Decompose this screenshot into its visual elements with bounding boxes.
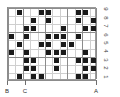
grid-major-vline <box>8 8 9 79</box>
grid-cell-filled <box>24 34 29 39</box>
x-axis-tick <box>25 80 26 85</box>
row-number-axis: 987654321 <box>99 5 113 81</box>
grid-cell-filled <box>54 50 59 55</box>
y-axis-line <box>7 7 8 81</box>
grid-frame <box>7 7 96 80</box>
grid-cell-filled <box>76 74 81 79</box>
x-axis-tick-label: A <box>91 87 101 95</box>
grid-cell-filled <box>61 26 66 31</box>
grid-cell-filled <box>61 42 66 47</box>
grid-cell-filled <box>76 10 81 15</box>
grid-cell-filled <box>83 10 88 15</box>
grid-cell-filled <box>46 42 51 47</box>
x-axis-tick-label: C <box>20 87 30 95</box>
x-axis-tick <box>96 80 97 85</box>
grid-cell-filled <box>61 34 66 39</box>
grid-cell-filled <box>39 74 44 79</box>
pattern-grid <box>7 7 96 80</box>
x-axis: BCA <box>0 80 120 97</box>
grid-cell-filled <box>76 34 81 39</box>
grid-cell-filled <box>31 58 36 63</box>
grid-cell-filled <box>46 34 51 39</box>
grid-major-vline <box>23 8 24 79</box>
grid-cell-filled <box>83 66 88 71</box>
grid-cell-filled <box>69 42 74 47</box>
chart-figure: 987654321 BCA <box>0 0 120 97</box>
grid-major-hline <box>8 8 95 9</box>
grid-cell-filled <box>31 18 36 23</box>
grid-cell-filled <box>24 58 29 63</box>
grid-major-hline <box>8 32 95 33</box>
grid-cell-filled <box>46 18 51 23</box>
grid-major-vline <box>45 8 46 79</box>
grid-cell-filled <box>9 50 14 55</box>
grid-cell-filled <box>83 58 88 63</box>
grid-major-hline <box>8 57 95 58</box>
grid-cell-filled <box>76 58 81 63</box>
grid-cell-filled <box>31 74 36 79</box>
grid-major-vline <box>96 8 97 79</box>
grid-cell-filled <box>61 50 66 55</box>
grid-cell-filled <box>31 26 36 31</box>
x-axis-line <box>7 80 97 81</box>
grid-cell-filled <box>83 26 88 31</box>
grid-cell-filled <box>9 34 14 39</box>
grid-cell-filled <box>46 50 51 55</box>
grid-cell-filled <box>17 74 22 79</box>
grid-cell-filled <box>39 10 44 15</box>
grid-cell-filled <box>54 58 59 63</box>
grid-cell-filled <box>24 50 29 55</box>
grid-cell-filled <box>24 66 29 71</box>
grid-cell-filled <box>83 50 88 55</box>
grid-cell-filled <box>46 10 51 15</box>
grid-cell-filled <box>83 74 88 79</box>
grid-cell-filled <box>31 66 36 71</box>
grid-major-vline <box>82 8 83 79</box>
grid-cell-filled <box>54 66 59 71</box>
grid-cell-filled <box>17 10 22 15</box>
grid-cell-filled <box>54 34 59 39</box>
grid-major-vline <box>67 8 68 79</box>
grid-cell-filled <box>17 42 22 47</box>
grid-cell-filled <box>76 18 81 23</box>
grid-cell-filled <box>39 42 44 47</box>
grid-cell-filled <box>24 26 29 31</box>
x-axis-tick-label: B <box>2 87 12 95</box>
